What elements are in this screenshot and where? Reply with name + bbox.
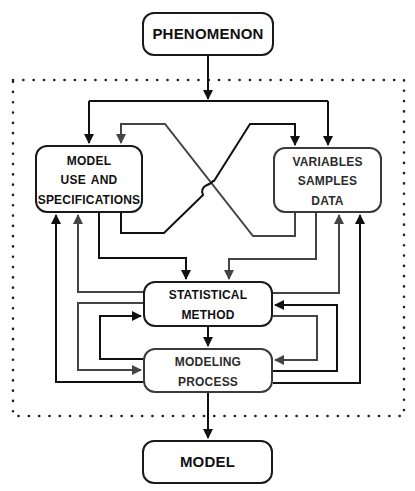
node-modeling-process: Modeling Process (143, 348, 273, 393)
edge-statistical-to-modeling-right (273, 316, 317, 360)
node-phenomenon: PHENOMENON (142, 12, 274, 56)
edge-statistical-to-variables (273, 215, 339, 293)
node-label: Method (181, 304, 234, 324)
edge-statistical-to-model-use (78, 215, 143, 292)
node-label: Statistical (169, 284, 247, 304)
connector-layer (0, 0, 415, 491)
edge-modeling-to-statistical-left (100, 316, 143, 359)
node-label: Modeling (175, 351, 241, 371)
node-label: Process (178, 371, 238, 391)
node-label: Data (311, 190, 343, 210)
node-label: Model (67, 150, 111, 170)
node-label: Use and (61, 169, 118, 189)
node-label: MODEL (180, 453, 235, 470)
node-label: Samples (298, 170, 357, 190)
edge-modeling-to-statistical-right (273, 305, 337, 371)
node-label: Specifications (38, 189, 141, 209)
edge-phenomenon-split (89, 56, 328, 145)
node-label: PHENOMENON (152, 25, 263, 42)
flowchart-diagram: PHENOMENON Model Use and Specifications … (0, 0, 415, 491)
edge-variables-to-model-use-crossing (121, 124, 295, 236)
node-model: MODEL (142, 440, 273, 484)
node-label: Variables (292, 151, 362, 171)
node-statistical-method: Statistical Method (143, 281, 273, 327)
node-variables-samples-data: Variables Samples Data (273, 147, 382, 213)
node-model-use-specifications: Model Use and Specifications (35, 145, 143, 213)
